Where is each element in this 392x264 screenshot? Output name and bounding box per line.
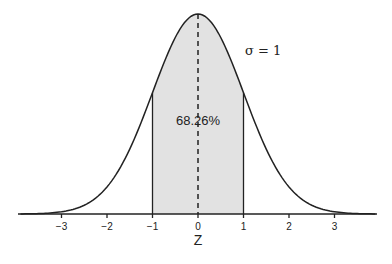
sigma-label: σ = 1: [245, 43, 281, 58]
x-tick-label: 0: [195, 221, 201, 232]
x-tick-label: 2: [286, 221, 292, 232]
percent-label: 68.26%: [176, 113, 221, 128]
x-tick-label: 1: [241, 221, 247, 232]
x-tick-label: −1: [147, 221, 159, 232]
x-tick-label: 3: [332, 221, 338, 232]
normal-distribution-chart: −3−2−10123 68.26% σ = 1 Z: [0, 0, 392, 264]
chart-canvas: −3−2−10123 68.26% σ = 1 Z: [0, 0, 392, 264]
x-axis-title: Z: [194, 232, 203, 248]
x-axis-ticks: −3−2−10123: [56, 214, 338, 232]
x-tick-label: −2: [101, 221, 113, 232]
x-tick-label: −3: [56, 221, 68, 232]
